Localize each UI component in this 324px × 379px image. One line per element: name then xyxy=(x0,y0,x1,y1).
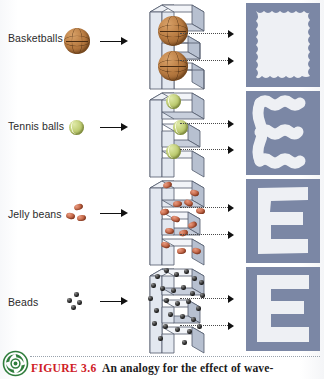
rough-letter-e-output xyxy=(246,179,320,263)
bead-icon xyxy=(71,305,76,310)
caption-text: An analogy for the effect of wave- xyxy=(102,362,274,375)
bead-icon xyxy=(67,298,72,303)
outgoing-arrow-jelly-beans-1 xyxy=(180,203,236,212)
green-spiral-leaf-logo xyxy=(2,350,29,377)
arrow-shaft xyxy=(180,207,228,208)
wavy-letter-e-output xyxy=(246,91,320,175)
arrow-head xyxy=(228,57,234,65)
row-label-beads: Beads xyxy=(8,296,38,308)
bead-in-stencil xyxy=(164,298,169,303)
basketball-seam xyxy=(160,66,186,67)
outgoing-arrow-tennis-balls-1 xyxy=(180,119,236,128)
bead-in-stencil xyxy=(152,321,157,326)
caption-divider xyxy=(30,356,320,357)
row-label-jelly-beans: Jelly beans xyxy=(8,208,62,220)
bead-in-stencil xyxy=(160,286,165,291)
bead-in-stencil xyxy=(199,280,204,285)
bead-in-stencil xyxy=(182,340,187,345)
incoming-particles-tennis-balls xyxy=(58,90,106,178)
bead-in-stencil xyxy=(174,272,179,277)
outgoing-arrow-jelly-beans-2 xyxy=(180,230,236,239)
figure-caption: FIGURE 3.6 An analogy for the effect of … xyxy=(31,362,323,375)
bead-in-stencil xyxy=(184,269,189,274)
arrow-shaft xyxy=(100,301,121,302)
outgoing-arrow-basketballs-2 xyxy=(180,56,236,65)
outgoing-arrow-tennis-balls-2 xyxy=(180,145,236,154)
arrow-head xyxy=(228,120,234,128)
row-label-tennis-balls: Tennis balls xyxy=(8,120,64,132)
bead-in-stencil xyxy=(175,301,180,306)
tennis-ball-in-slot-3 xyxy=(166,144,181,159)
arrow-shaft xyxy=(180,298,228,299)
analogy-row-basketballs: Basketballs xyxy=(0,2,324,90)
figure-3-6: Basketballs xyxy=(0,0,324,379)
bead-in-stencil xyxy=(158,336,163,341)
row-label-basketballs: Basketballs xyxy=(8,32,63,44)
arrow-head xyxy=(228,30,234,38)
arrow-head xyxy=(121,297,128,305)
tennis-ball-in-slot-1 xyxy=(166,94,181,109)
e-shaped-slot-stencil-icon xyxy=(130,2,234,90)
incoming-arrow-beads xyxy=(100,297,128,306)
arrow-head xyxy=(121,209,128,217)
incoming-particles-beads xyxy=(58,266,106,354)
arrow-shaft xyxy=(180,123,228,124)
analogy-row-beads: Beads xyxy=(0,266,324,354)
arrow-shaft xyxy=(180,325,228,326)
bead-in-stencil xyxy=(154,308,159,313)
arrow-shaft xyxy=(100,41,121,42)
tennis-ball-icon xyxy=(69,120,84,135)
arrow-shaft xyxy=(180,33,228,34)
bead-in-stencil xyxy=(151,283,156,288)
outgoing-arrow-beads-2 xyxy=(180,321,236,330)
blurred-blob-output xyxy=(246,3,320,87)
bead-in-stencil xyxy=(175,327,180,332)
outgoing-arrow-basketballs-1 xyxy=(180,29,236,38)
incoming-particles-jelly-beans xyxy=(58,178,106,266)
bead-in-stencil xyxy=(171,288,176,293)
jelly-bean-icon xyxy=(77,214,87,221)
arrow-head xyxy=(228,322,234,330)
bead-icon xyxy=(77,300,82,305)
bead-icon xyxy=(74,292,79,297)
incoming-arrow-tennis-balls xyxy=(100,123,128,132)
bead-in-stencil xyxy=(180,314,185,319)
arrow-head xyxy=(228,231,234,239)
bead-in-stencil xyxy=(196,306,201,311)
bead-in-stencil xyxy=(192,276,197,281)
bead-in-stencil xyxy=(148,296,153,301)
arrow-shaft xyxy=(180,60,228,61)
incoming-arrow-jelly-beans xyxy=(100,209,128,218)
arrow-shaft xyxy=(100,213,121,214)
outgoing-arrow-beads-1 xyxy=(180,294,236,303)
e-shaped-slot-stencil-icon xyxy=(130,90,234,178)
incoming-particles-basketballs xyxy=(58,2,106,90)
arrow-shaft xyxy=(180,149,228,150)
incoming-arrow-basketballs xyxy=(100,37,128,46)
analogy-row-jelly-beans: Jelly beans xyxy=(0,178,324,266)
arrow-head xyxy=(228,295,234,303)
analogy-row-tennis-balls: Tennis balls xyxy=(0,90,324,178)
bead-in-stencil xyxy=(181,285,186,290)
arrow-head xyxy=(228,146,234,154)
arrow-head xyxy=(228,204,234,212)
arrow-head xyxy=(121,37,128,45)
basketball-icon xyxy=(64,28,90,54)
basketball-seam xyxy=(66,41,89,42)
sharp-letter-e-output xyxy=(246,267,320,351)
bead-in-stencil xyxy=(168,312,173,317)
jelly-bean-icon xyxy=(73,203,83,211)
bead-in-stencil xyxy=(163,324,168,329)
bead-in-stencil xyxy=(164,268,169,273)
arrow-shaft xyxy=(100,127,121,128)
arrow-head xyxy=(121,123,128,131)
e-shaped-slot-stencil-icon xyxy=(130,178,234,266)
jelly-bean-icon xyxy=(65,212,75,220)
e-shaped-slot-stencil-icon xyxy=(130,266,234,354)
bead-in-stencil xyxy=(155,274,160,279)
arrow-shaft xyxy=(180,234,228,235)
figure-number: FIGURE 3.6 xyxy=(31,362,96,375)
